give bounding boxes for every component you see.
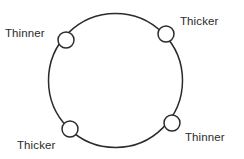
- node-top-left-circle: [58, 32, 74, 48]
- node-bottom-right-circle: [164, 115, 180, 131]
- node-label-bottom-left: Thicker: [17, 139, 55, 152]
- node-label-top-left: Thinner: [5, 27, 45, 40]
- node-label-top-right: Thicker: [180, 15, 218, 28]
- ring-diagram: Thinner Thicker Thicker Thinner: [0, 0, 244, 159]
- node-bottom-left-circle: [62, 121, 78, 137]
- node-label-bottom-right: Thinner: [185, 131, 225, 144]
- node-top-right-circle: [158, 26, 174, 42]
